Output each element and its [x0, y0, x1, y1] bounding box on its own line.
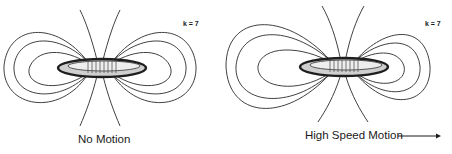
- right-ring: [300, 58, 388, 76]
- left-ring: [58, 59, 146, 77]
- left-caption: No Motion: [78, 133, 130, 145]
- right-caption: High Speed Motion: [305, 129, 403, 141]
- right-k-label: k = 7: [425, 20, 441, 27]
- left-k-label: k = 7: [183, 20, 199, 27]
- direction-arrow-icon: [398, 134, 441, 139]
